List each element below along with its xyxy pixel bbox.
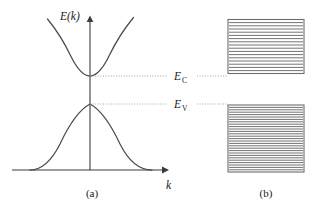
k-axis-arrow-icon (162, 167, 169, 174)
valence-band-state-lines (229, 107, 303, 169)
band-diagram-figure: E(k) k E C E V (a) (b) (0, 0, 318, 209)
energy-axis (87, 16, 94, 171)
conduction-band-box (228, 20, 304, 74)
energy-axis-label: E(k) (59, 10, 80, 23)
ec-level-label-subscript: C (182, 76, 187, 85)
valence-band-curve (30, 104, 152, 170)
k-axis-label: k (166, 179, 172, 191)
ec-level-label-text: E (173, 70, 181, 82)
panel-a-caption: (a) (86, 187, 99, 200)
panel-a-group (12, 16, 228, 174)
panel-b-group (228, 20, 304, 173)
ev-level-label-subscript: V (182, 104, 188, 113)
panel-b-caption: (b) (260, 187, 273, 200)
energy-axis-arrow-icon (87, 16, 94, 23)
ev-level-label: E V (173, 98, 188, 113)
ev-level-label-text: E (173, 98, 181, 110)
ec-level-label: E C (173, 70, 187, 85)
band-diagram-canvas: E(k) k E C E V (a) (b) (0, 0, 318, 209)
